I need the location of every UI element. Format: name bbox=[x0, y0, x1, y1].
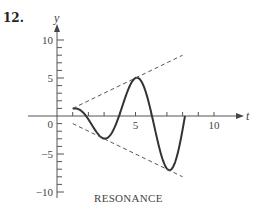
y-axis-label: y bbox=[53, 11, 60, 25]
y-tick-label: 0 bbox=[48, 118, 54, 130]
y-tick-label: −5 bbox=[41, 148, 53, 160]
y-tick-label: 10 bbox=[42, 34, 54, 46]
x-axis-label: t bbox=[246, 109, 250, 123]
y-axis-arrow-icon bbox=[54, 24, 60, 32]
y-tick-label: −10 bbox=[36, 186, 54, 198]
axes bbox=[28, 24, 244, 198]
x-tick-label: 10 bbox=[209, 119, 221, 131]
resonance-chart: 5100510−5−10 t y RESONANCE bbox=[0, 0, 255, 216]
y-tick-label: 5 bbox=[48, 72, 54, 84]
chart-caption: RESONANCE bbox=[94, 192, 163, 204]
envelope-line bbox=[73, 55, 183, 108]
x-tick-label: 5 bbox=[133, 119, 139, 131]
x-axis-arrow-icon bbox=[236, 113, 244, 119]
solution-curve bbox=[73, 78, 185, 171]
